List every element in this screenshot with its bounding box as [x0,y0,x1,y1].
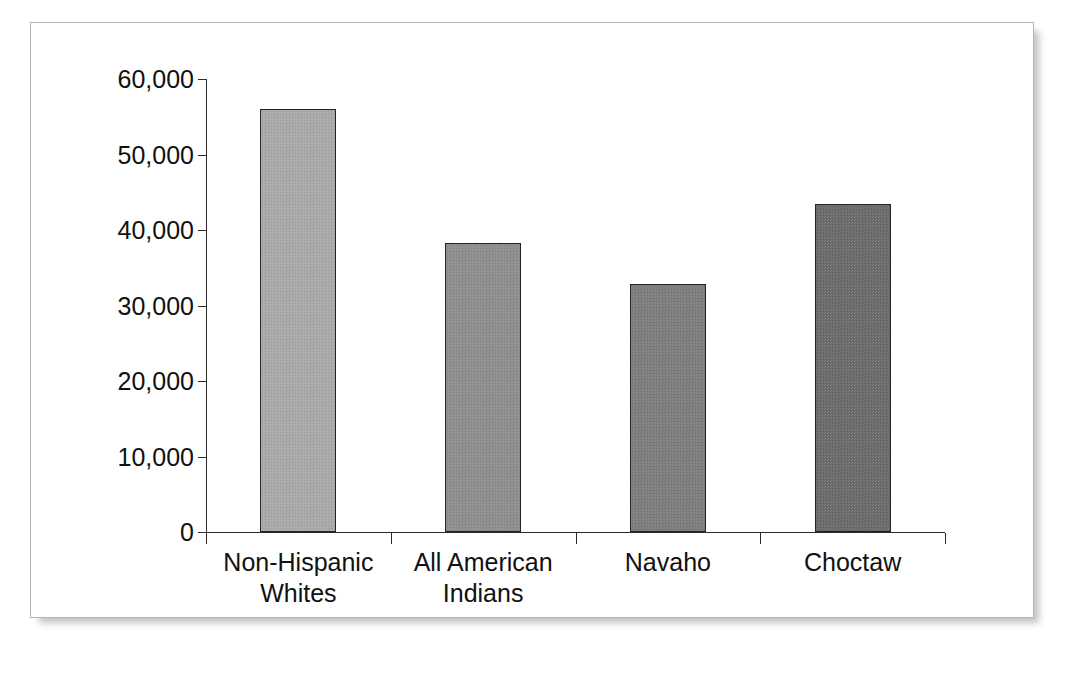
y-tick-mark-40000 [198,230,207,231]
y-tick-label-50000: 50,000 [118,140,194,169]
bar-texture [446,244,520,531]
bar-texture [631,285,705,531]
bar-3 [815,204,891,532]
y-tick-label-60000: 60,000 [118,65,194,94]
y-tick-label-0: 0 [180,518,194,547]
y-tick-mark-30000 [198,306,207,307]
y-tick-label-30000: 30,000 [118,291,194,320]
category-label-0: Non-Hispanic Whites [206,547,391,609]
chart-figure-frame: 60,000 50,000 40,000 30,000 20,000 10,00… [30,22,1034,618]
bar-texture [816,205,890,531]
screenshot-root: 60,000 50,000 40,000 30,000 20,000 10,00… [0,0,1067,675]
y-tick-mark-20000 [198,381,207,382]
bar-1 [445,243,521,532]
y-tick-mark-50000 [198,155,207,156]
bar-2 [630,284,706,532]
bar-0 [260,109,336,532]
x-tick-mark-4 [945,533,946,544]
x-tick-mark-2 [576,533,577,544]
x-tick-mark-1 [391,533,392,544]
y-tick-label-40000: 40,000 [118,216,194,245]
category-label-2: Navaho [576,547,761,578]
x-tick-mark-3 [760,533,761,544]
category-label-1: All American Indians [391,547,576,609]
bar-texture [261,110,335,531]
y-tick-label-20000: 20,000 [118,367,194,396]
x-tick-mark-0 [206,533,207,544]
y-axis-tick-labels: 60,000 50,000 40,000 30,000 20,000 10,00… [31,23,194,619]
y-tick-mark-60000 [198,79,207,80]
category-label-3: Choctaw [760,547,945,578]
bar-chart-plot: 60,000 50,000 40,000 30,000 20,000 10,00… [31,23,1035,619]
y-tick-label-10000: 10,000 [118,442,194,471]
y-tick-mark-10000 [198,457,207,458]
